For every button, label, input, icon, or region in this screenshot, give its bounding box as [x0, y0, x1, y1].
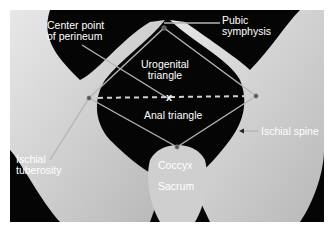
right-ischial-tuberosity-point [254, 94, 258, 98]
left-ischial-tuberosity-point [87, 96, 91, 100]
ischial-spine-label: Ischial spine [261, 126, 319, 137]
urogenital-label-line2: triangle [141, 70, 189, 81]
coccyx-label: Coccyx [158, 160, 192, 171]
interischial-dashed-line [89, 96, 256, 98]
pubic-symphysis-point [162, 26, 166, 30]
anal-triangle-label: Anal triangle [144, 110, 202, 121]
coccyx-point [175, 145, 179, 149]
ischial-tuberosity-label: Ischial tuberosity [16, 154, 62, 176]
center-point-label: Center point of perineum [47, 20, 104, 42]
pubic-symphysis-label: Pubic symphysis [222, 15, 271, 37]
sacrum-label: Sacrum [158, 181, 194, 192]
ischial-tuberosity-label-line2: tuberosity [16, 165, 62, 176]
center-point-label-line2: of perineum [47, 31, 104, 42]
urogenital-triangle-label: Urogenital triangle [141, 59, 189, 81]
center-x-marker: x [166, 92, 172, 103]
pubic-symphysis-label-line2: symphysis [222, 26, 271, 37]
